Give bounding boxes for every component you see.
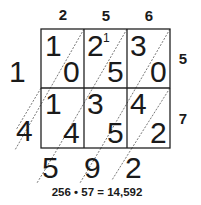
top-digit: 5 xyxy=(102,7,110,24)
cell-ones: 0 xyxy=(150,55,167,88)
top-digit: 6 xyxy=(145,7,153,24)
right-digit: 7 xyxy=(179,110,187,127)
equation-caption: 256 • 57 = 14,592 xyxy=(52,186,143,198)
cell-tens: 4 xyxy=(130,87,147,120)
cell-ones: 2 xyxy=(150,116,167,149)
result-digit: 2 xyxy=(125,151,142,184)
cell-ones: 4 xyxy=(63,116,80,149)
top-digit: 2 xyxy=(59,6,67,23)
cell-tens: 3 xyxy=(130,29,147,62)
lattice-diagram: 2 5 6 5 7 1 0 2 1 5 3 0 1 4 3 5 4 2 1 4 … xyxy=(0,0,201,205)
carry-digit: 1 xyxy=(103,31,110,45)
result-digit: 1 xyxy=(9,55,26,88)
cell-tens: 1 xyxy=(45,29,62,62)
cell-tens: 1 xyxy=(45,87,62,120)
cell-tens: 3 xyxy=(87,87,104,120)
cell-ones: 5 xyxy=(107,55,124,88)
cell-ones: 0 xyxy=(63,55,80,88)
cell-ones: 5 xyxy=(107,116,124,149)
result-digit: 9 xyxy=(84,151,101,184)
result-digit: 4 xyxy=(16,114,33,147)
result-digit: 5 xyxy=(42,151,59,184)
cell-tens: 2 xyxy=(87,29,104,62)
right-digit: 5 xyxy=(179,50,187,67)
